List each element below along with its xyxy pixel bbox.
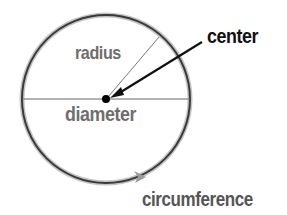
circumference-label: circumference [142,188,253,211]
radius-label: radius [75,42,121,64]
circle-diagram: radius center diameter circumference [0,0,287,215]
diameter-label: diameter [65,102,136,126]
center-label: center [207,24,258,48]
